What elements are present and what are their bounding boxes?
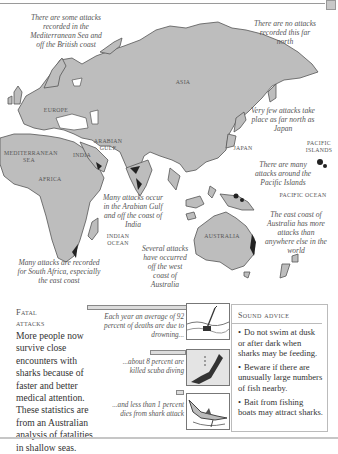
sound-advice-box: Sound advice •Do not swim at dusk or aft… <box>231 304 328 432</box>
fatal-attacks-heading: Fatal attacks <box>16 307 45 329</box>
label-indian-ocean: Indian Ocean <box>104 233 132 247</box>
bullet-icon: • <box>238 397 241 408</box>
advice-text-3: Bait from fishing boats may attract shar… <box>238 397 323 418</box>
bottom-rule <box>0 437 338 439</box>
fatal-title-line1: Fatal <box>16 307 45 318</box>
label-mediterranean: Mediterranean Sea <box>4 150 54 164</box>
stat-scuba: ...about 8 percent are killed scuba divi… <box>112 358 184 376</box>
note-pacific: There are many attacks around the Pacifi… <box>252 160 314 187</box>
note-south-africa: Many attacks are recorded for South Afri… <box>16 258 102 285</box>
label-arabian-gulf: Arabian Gulf <box>93 138 123 152</box>
label-japan: Japan <box>226 145 260 152</box>
note-far-north: There are no attacks recorded this far n… <box>252 19 318 46</box>
bullet-icon: • <box>238 327 241 338</box>
scuba-diver-icon <box>186 349 230 386</box>
sound-advice-title: Sound advice <box>232 305 322 324</box>
label-pacific-ocean: Pacific ocean <box>277 192 329 199</box>
shark-bar <box>176 390 184 395</box>
label-india: India <box>64 152 100 159</box>
note-japan: Very few attacks take place as far north… <box>250 106 316 133</box>
label-africa: Africa <box>30 176 70 183</box>
label-europe: Europe <box>38 107 74 114</box>
shark-attack-icon <box>186 393 230 430</box>
drowning-swimmer-icon <box>186 303 230 340</box>
label-pacific-islands: Pacific Islands <box>304 140 334 154</box>
label-australia: Australia <box>200 233 244 240</box>
drowning-bar <box>87 305 187 310</box>
advice-item-2: •Beware if there are unusually large num… <box>232 359 327 394</box>
bullet-icon: • <box>238 362 241 373</box>
advice-text-2: Beware if there are unusually large numb… <box>238 362 322 393</box>
stat-shark: ...and less than 1 percent dies from sha… <box>112 401 184 419</box>
stat-drowning: Each year an average of 92 percent of de… <box>92 313 184 340</box>
fatal-title-line2: attacks <box>16 318 45 329</box>
advice-item-3: •Bait from fishing boats may attract sha… <box>232 394 327 418</box>
note-east-australia: The east coast of Australia has more att… <box>262 210 330 255</box>
note-arabian: Many attacks occur in the Arabian Gulf a… <box>100 193 166 229</box>
fatal-attacks-body: More people now survive close encounters… <box>16 330 96 454</box>
advice-text-1: Do not swim at dusk or after dark when s… <box>238 327 317 358</box>
advice-item-1: •Do not swim at dusk or after dark when … <box>232 324 327 359</box>
note-west-australia: Several attacks have occurred off the we… <box>140 244 190 289</box>
scuba-bar <box>150 350 186 355</box>
label-asia: Asia <box>168 79 198 86</box>
note-mediterranean: There are some attacks recorded in the M… <box>26 13 106 49</box>
